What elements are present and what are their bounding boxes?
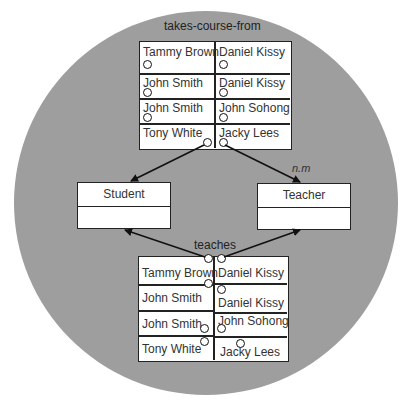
diagram-canvas: takes-course-from Tammy Brown Daniel Kis… — [0, 0, 414, 407]
association-arrows — [0, 0, 414, 407]
arrow-to-student-bottom — [125, 230, 205, 257]
arrow-to-teacher — [225, 145, 300, 182]
arrow-to-teacher-bottom — [224, 230, 300, 257]
arrow-to-student — [131, 145, 204, 181]
